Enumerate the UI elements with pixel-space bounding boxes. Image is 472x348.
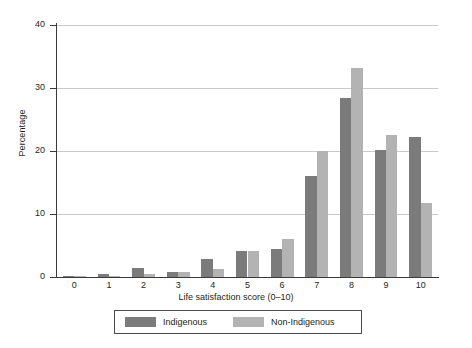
bar	[340, 98, 351, 277]
legend-swatch-icon-indigenous	[125, 317, 156, 327]
y-tick-mark	[50, 25, 56, 26]
y-tick-label: 30	[0, 83, 45, 92]
y-tick-mark	[50, 214, 56, 215]
bar	[63, 276, 74, 277]
bar	[282, 239, 293, 277]
bar	[271, 249, 282, 277]
y-tick-mark	[50, 151, 56, 152]
bar	[201, 259, 212, 277]
legend-swatch-icon-non-indigenous	[233, 317, 264, 327]
bars-layer	[57, 25, 438, 277]
y-tick-label: 40	[0, 20, 45, 29]
plot-area	[57, 25, 438, 277]
y-tick-label: 10	[0, 209, 45, 218]
bar	[421, 203, 432, 277]
bar	[74, 276, 85, 277]
bar	[98, 274, 109, 277]
bar	[178, 272, 189, 277]
bar-chart: Percentage 010203040 012345678910 Life s…	[0, 0, 472, 348]
bar	[409, 137, 420, 277]
bar	[375, 150, 386, 277]
y-tick-mark	[50, 277, 56, 278]
x-axis-line	[56, 277, 439, 278]
bar	[213, 269, 224, 277]
x-tick-label: 10	[401, 281, 441, 290]
bar	[144, 274, 155, 277]
y-axis-title: Percentage	[17, 83, 27, 183]
legend-label-non-indigenous: Non-Indigenous	[271, 317, 335, 327]
bar	[167, 272, 178, 277]
bar	[132, 268, 143, 277]
bar	[386, 135, 397, 277]
bar	[351, 68, 362, 277]
bar	[248, 251, 259, 277]
y-tick-label: 0	[0, 272, 45, 281]
legend: Indigenous Non-Indigenous	[114, 310, 362, 334]
bar	[317, 151, 328, 277]
bar	[109, 276, 120, 277]
y-tick-label: 20	[0, 146, 45, 155]
bar	[236, 251, 247, 277]
legend-label-indigenous: Indigenous	[163, 317, 207, 327]
bar	[305, 176, 316, 277]
y-tick-mark	[50, 88, 56, 89]
x-axis-title: Life satisfaction score (0–10)	[0, 292, 472, 302]
legend-entry-non-indigenous: Non-Indigenous	[233, 311, 335, 333]
legend-entry-indigenous: Indigenous	[125, 311, 207, 333]
